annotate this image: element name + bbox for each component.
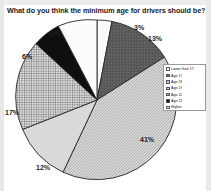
chart-legend: Lower than 17 Age 17 Age 18 Age 19 Age 2…: [163, 64, 206, 111]
legend-swatch-age-18: [166, 80, 170, 84]
pie-label-lower-than-17: 3%: [134, 24, 144, 31]
legend-swatch-age-19: [166, 87, 170, 91]
legend-item-age-21[interactable]: Age 21: [166, 98, 204, 104]
legend-item-age-17[interactable]: Age 17: [166, 72, 204, 78]
legend-label-age-21: Age 21: [171, 98, 182, 104]
legend-label-age-18: Age 18: [171, 79, 182, 85]
legend-item-age-19[interactable]: Age 19: [166, 85, 204, 91]
legend-label-age-19: Age 19: [171, 85, 182, 91]
legend-swatch-age-17: [166, 74, 170, 78]
legend-swatch-higher: [166, 106, 170, 110]
legend-swatch-age-20: [166, 93, 170, 97]
legend-label-age-17: Age 17: [171, 73, 182, 79]
pie-label-age-21: 6%: [22, 53, 32, 60]
chart-title: What do you think the minimum age for dr…: [7, 6, 207, 15]
legend-item-lower-than-17[interactable]: Lower than 17: [166, 66, 204, 72]
pie-label-higher: 8%: [50, 30, 60, 37]
pie-label-age-17: 13%: [148, 35, 162, 42]
legend-label-lower-than-17: Lower than 17: [171, 66, 194, 72]
legend-item-age-20[interactable]: Age 20: [166, 92, 204, 98]
pie-label-age-20: 17%: [5, 109, 19, 116]
legend-label-age-20: Age 20: [171, 92, 182, 98]
legend-label-higher: Higher: [171, 104, 182, 110]
page-top-edge: [0, 0, 211, 5]
legend-item-age-18[interactable]: Age 18: [166, 79, 204, 85]
chart-page: What do you think the minimum age for dr…: [0, 0, 211, 191]
legend-swatch-lower-than-17: [166, 67, 170, 71]
legend-swatch-age-21: [166, 99, 170, 103]
legend-item-higher[interactable]: Higher: [166, 104, 204, 110]
pie-label-age-18: 41%: [140, 136, 154, 143]
pie-label-age-19: 12%: [36, 164, 50, 171]
